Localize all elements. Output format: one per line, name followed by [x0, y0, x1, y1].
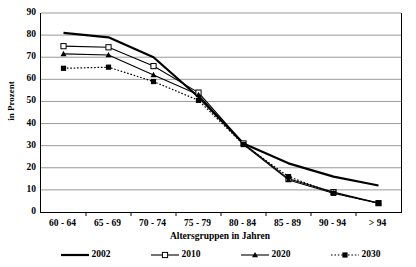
legend-item-2030[interactable]: 2030	[330, 249, 381, 261]
y-tick-label: 20	[16, 163, 36, 173]
legend-swatch-2010	[150, 249, 180, 261]
y-tick-label: 40	[16, 119, 36, 129]
data-point-2010-70 - 74	[151, 63, 156, 68]
data-point-2030-90 - 94	[331, 191, 336, 196]
data-point-2030-85 - 89	[286, 174, 291, 179]
data-point-2030-60 - 64	[61, 66, 66, 71]
line-chart: in Prozent 9080706050403020100 60 - 6465…	[0, 0, 416, 267]
series-line-2020	[64, 54, 379, 203]
x-tick-label->94: > 94	[348, 218, 408, 228]
chart-legend: 2002201020202030	[40, 247, 400, 263]
y-tick-label: 60	[16, 74, 36, 84]
y-tick-label: 90	[16, 8, 36, 18]
legend-label-2020: 2020	[272, 250, 291, 260]
y-tick-label: 80	[16, 30, 36, 40]
y-tick-label: 70	[16, 52, 36, 62]
x-axis-title: Altersgruppen in Jahren	[40, 231, 400, 241]
legend-label-2030: 2030	[362, 250, 381, 260]
data-point-2010-60 - 64	[61, 44, 66, 49]
legend-swatch-2020	[240, 249, 270, 261]
data-point-2030-75 - 79	[196, 98, 201, 103]
y-tick-label: 30	[16, 141, 36, 151]
legend-label-2002: 2002	[92, 250, 111, 260]
legend-swatch-2030	[330, 249, 360, 261]
legend-item-2010[interactable]: 2010	[150, 249, 201, 261]
y-tick-label: 0	[16, 207, 36, 217]
data-point-2030-70 - 74	[151, 79, 156, 84]
legend-item-2020[interactable]: 2020	[240, 249, 291, 261]
data-point-2030-> 94	[376, 201, 381, 206]
y-tick-label: 50	[16, 96, 36, 106]
legend-item-2002[interactable]: 2002	[60, 249, 111, 261]
series-line-2030	[64, 67, 379, 203]
plot-svg	[41, 13, 401, 212]
x-axis-ticks: 60 - 6465 - 6970 - 7475 - 7980 - 8485 - …	[40, 218, 400, 232]
legend-label-2010: 2010	[182, 250, 201, 260]
data-point-2010-65 - 69	[106, 45, 111, 50]
data-point-2030-65 - 69	[106, 65, 111, 70]
data-point-2030-80 - 84	[241, 142, 246, 147]
legend-swatch-2002	[60, 249, 90, 261]
y-tick-label: 10	[16, 185, 36, 195]
plot-area	[40, 13, 402, 213]
